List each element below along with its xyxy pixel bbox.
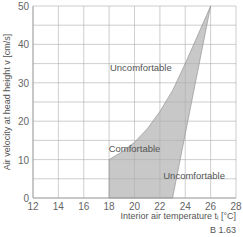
y-axis-label: Air velocity at head height v [cm/s] [2,34,12,171]
x-tick-label: 14 [53,201,65,212]
x-tick-label: 16 [78,201,90,212]
x-axis-label: Interior air temperature tᵢ [°C] [120,211,236,221]
y-tick-label: 30 [18,78,30,89]
y-tick-label: 50 [18,1,30,12]
figure-id: B 1.63 [210,225,236,235]
x-tick-label: 18 [104,201,116,212]
y-tick-labels: 01020304050 [18,1,30,204]
y-tick-label: 10 [18,155,30,166]
region-label: Uncomfortable [110,62,172,73]
x-tick-label: 12 [27,201,39,212]
comfort-chart: 121416182022242628 01020304050 Uncomfort… [0,0,243,237]
y-tick-label: 20 [18,116,30,127]
region-label: Comfortable [109,143,161,154]
y-tick-label: 0 [23,193,29,204]
y-tick-label: 40 [18,39,30,50]
region-label: Uncomfortable [163,170,225,181]
